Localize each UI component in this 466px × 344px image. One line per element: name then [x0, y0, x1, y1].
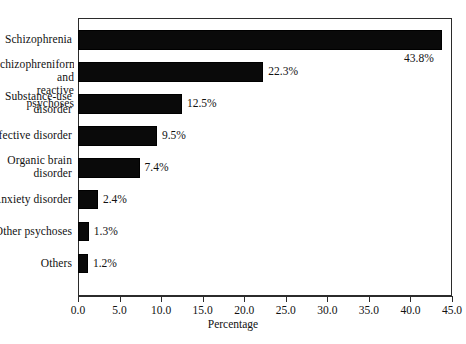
x-axis-tick-label: 20.0 — [234, 303, 254, 317]
x-axis-tick — [327, 296, 328, 302]
x-axis-tick-label: 0.0 — [71, 303, 85, 317]
x-axis-tick-label: 30.0 — [317, 303, 337, 317]
x-axis-tick-label: 5.0 — [112, 303, 126, 317]
bar — [78, 222, 89, 241]
chart-row: Other psychoses1.3% — [0, 216, 466, 248]
category-label: Organic brain disorder — [0, 154, 72, 180]
x-axis-tick — [452, 296, 453, 302]
category-label: Substance-use disorder — [0, 90, 72, 116]
value-label: 22.3% — [268, 65, 298, 78]
bar — [78, 254, 88, 273]
bar-chart: Schizophrenia43.8%chizophreniform and re… — [0, 0, 466, 344]
category-label: Anxiety disorder — [0, 193, 72, 206]
x-axis-tick-label: 45.0 — [442, 303, 462, 317]
chart-row: chizophreniform and reactive psychoses22… — [0, 56, 466, 88]
x-axis-tick-label: 15.0 — [193, 303, 213, 317]
x-axis-line — [78, 296, 452, 297]
chart-row: Substance-use disorder12.5% — [0, 88, 466, 120]
category-label: Affective disorder — [0, 129, 72, 142]
chart-row: Anxiety disorder2.4% — [0, 184, 466, 216]
value-label: 12.5% — [187, 97, 217, 110]
chart-row: Others1.2% — [0, 248, 466, 280]
category-label: Schizophrenia — [0, 33, 72, 46]
x-axis-tick-label: 10.0 — [151, 303, 171, 317]
bar — [78, 62, 263, 82]
x-axis-tick — [78, 296, 79, 302]
x-axis-tick-label: 40.0 — [400, 303, 420, 317]
x-axis-tick — [161, 296, 162, 302]
x-axis-tick-label: 25.0 — [276, 303, 296, 317]
value-label: 2.4% — [103, 193, 127, 206]
x-axis-title: Percentage — [0, 318, 466, 330]
bar — [78, 158, 140, 178]
value-label: 1.3% — [94, 225, 118, 238]
value-label: 9.5% — [162, 129, 186, 142]
x-axis-tick — [286, 296, 287, 302]
bar — [78, 126, 157, 146]
chart-row: Organic brain disorder7.4% — [0, 152, 466, 184]
bar — [78, 30, 442, 50]
chart-row: Schizophrenia43.8% — [0, 24, 466, 56]
x-axis-tick — [203, 296, 204, 302]
value-label: 1.2% — [93, 257, 117, 270]
category-label: Other psychoses — [0, 225, 72, 238]
bar — [78, 94, 182, 114]
x-axis-tick — [244, 296, 245, 302]
x-axis-tick-label: 35.0 — [359, 303, 379, 317]
x-axis-tick — [120, 296, 121, 302]
category-label: Others — [0, 257, 72, 270]
value-label: 7.4% — [145, 161, 169, 174]
bar — [78, 190, 98, 209]
x-axis-tick — [410, 296, 411, 302]
chart-row: Affective disorder9.5% — [0, 120, 466, 152]
x-axis-tick — [369, 296, 370, 302]
